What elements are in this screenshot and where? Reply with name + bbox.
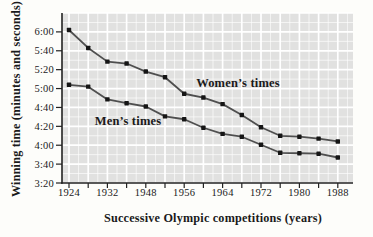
womens-marker — [105, 59, 109, 63]
womens-marker — [278, 134, 282, 138]
womens-marker — [240, 113, 244, 117]
y-tick-label: 5:20 — [0, 63, 54, 76]
womens-marker — [297, 135, 301, 139]
x-tick-label: 1980 — [279, 186, 319, 199]
womens-marker — [316, 136, 320, 140]
womens-series-label: Women’s times — [196, 76, 280, 91]
x-tick-label: 1964 — [203, 186, 243, 199]
mens-marker — [105, 97, 109, 101]
y-tick-label: 3:20 — [0, 177, 54, 190]
mens-marker — [220, 132, 224, 136]
y-tick-label: 3:40 — [0, 158, 54, 171]
y-tick-label: 5:40 — [0, 44, 54, 57]
womens-marker — [220, 102, 224, 106]
mens-marker — [144, 104, 148, 108]
y-tick-label: 4:00 — [0, 139, 54, 152]
mens-marker — [163, 114, 167, 118]
womens-marker — [201, 95, 205, 99]
mens-marker — [240, 135, 244, 139]
y-tick-label: 6:00 — [0, 25, 54, 38]
mens-marker — [67, 83, 71, 87]
mens-marker — [297, 151, 301, 155]
x-tick-label: 1924 — [49, 186, 89, 199]
x-tick-label: 1932 — [87, 186, 127, 199]
olympic-winning-times-figure: Winning time (minutes and seconds) Succe… — [0, 0, 373, 237]
womens-marker — [144, 69, 148, 73]
womens-marker — [259, 125, 263, 129]
mens-marker — [278, 151, 282, 155]
y-tick-label: 4:20 — [0, 120, 54, 133]
chart-canvas — [0, 0, 373, 237]
womens-marker — [336, 139, 340, 143]
y-tick-label: 4:40 — [0, 101, 54, 114]
x-axis-title: Successive Olympic competitions (years) — [104, 211, 322, 226]
mens-series-label: Men’s times — [95, 114, 162, 129]
mens-marker — [336, 155, 340, 159]
mens-marker — [182, 117, 186, 121]
womens-marker — [163, 75, 167, 79]
mens-marker — [259, 143, 263, 147]
womens-marker — [86, 46, 90, 50]
x-tick-label: 1972 — [241, 186, 281, 199]
mens-marker — [86, 84, 90, 88]
mens-marker — [124, 101, 128, 105]
mens-marker — [201, 126, 205, 130]
x-tick-label: 1956 — [164, 186, 204, 199]
mens-marker — [316, 152, 320, 156]
womens-marker — [124, 61, 128, 65]
x-tick-label: 1988 — [318, 186, 358, 199]
x-tick-label: 1948 — [126, 186, 166, 199]
womens-marker — [67, 28, 71, 32]
y-tick-label: 5:00 — [0, 82, 54, 95]
womens-marker — [182, 92, 186, 96]
